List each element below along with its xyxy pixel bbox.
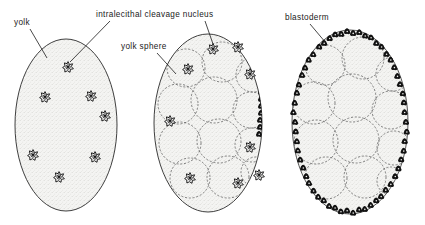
- label-intralecithal-cleavage-nucleus: intralecithal cleavage nucleus: [96, 10, 213, 19]
- figure-container: yolk intralecithal cleavage nucleus yolk…: [0, 0, 425, 225]
- label-yolk: yolk: [14, 18, 31, 27]
- label-blastoderm: blastoderm: [285, 13, 329, 22]
- panel-uncleaved-centrolecithal-egg: [15, 39, 117, 211]
- intralecithal-cleavage-diagram: yolk intralecithal cleavage nucleus yolk…: [0, 0, 425, 225]
- label-yolk-sphere: yolk sphere: [121, 42, 167, 51]
